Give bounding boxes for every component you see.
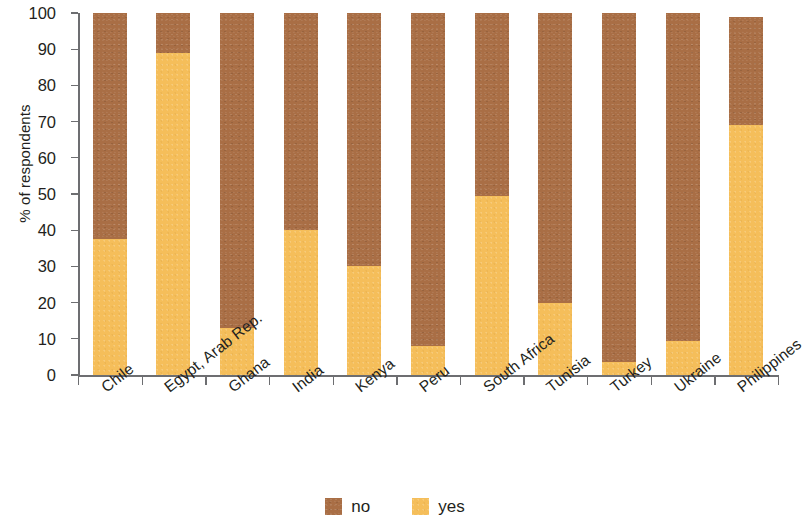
x-tick-mark xyxy=(523,375,524,385)
y-tick-label: 50 xyxy=(10,186,56,203)
y-tick-label: 60 xyxy=(10,150,56,167)
legend-label: yes xyxy=(438,498,464,515)
x-tick-mark xyxy=(778,375,779,385)
bar-group[interactable] xyxy=(284,13,318,375)
y-tick-mark xyxy=(71,374,78,375)
bar-segment-no[interactable] xyxy=(220,13,254,328)
x-tick-mark xyxy=(396,375,397,385)
y-tick-mark xyxy=(71,121,78,122)
bar-group[interactable] xyxy=(538,13,572,375)
legend-label: no xyxy=(351,498,370,515)
bar-segment-no[interactable] xyxy=(93,13,127,239)
y-tick-mark xyxy=(71,230,78,231)
x-tick-mark xyxy=(78,375,79,385)
y-tick-label: 0 xyxy=(10,367,56,384)
x-tick-mark xyxy=(333,375,334,385)
bar-group[interactable] xyxy=(93,13,127,375)
bar-segment-yes[interactable] xyxy=(347,266,381,375)
y-tick-label: 70 xyxy=(10,114,56,131)
plot-area: 0102030405060708090100 xyxy=(78,13,778,375)
legend-item[interactable]: no xyxy=(325,498,370,515)
legend-swatch-yes xyxy=(412,498,429,515)
legend-swatch-no xyxy=(325,498,342,515)
legend-item[interactable]: yes xyxy=(412,498,464,515)
bar-group[interactable] xyxy=(411,13,445,375)
bar-group[interactable] xyxy=(347,13,381,375)
bar-segment-no[interactable] xyxy=(602,13,636,362)
y-tick-mark xyxy=(71,338,78,339)
bar-segment-no[interactable] xyxy=(411,13,445,346)
chart-legend: noyes xyxy=(0,498,790,515)
bar-segment-no[interactable] xyxy=(284,13,318,230)
y-tick-label: 80 xyxy=(10,77,56,94)
bar-segment-no[interactable] xyxy=(475,13,509,196)
bar-group[interactable] xyxy=(666,13,700,375)
x-tick-mark xyxy=(651,375,652,385)
bar-segment-yes[interactable] xyxy=(156,53,190,375)
bar-segment-no[interactable] xyxy=(538,13,572,303)
bar-segment-no[interactable] xyxy=(729,17,763,126)
bar-segment-yes[interactable] xyxy=(729,125,763,375)
x-tick-mark xyxy=(205,375,206,385)
x-tick-mark xyxy=(714,375,715,385)
y-tick-mark xyxy=(71,193,78,194)
y-tick-mark xyxy=(71,12,78,13)
x-tick-mark xyxy=(142,375,143,385)
y-tick-label: 20 xyxy=(10,295,56,312)
x-tick-mark xyxy=(587,375,588,385)
y-tick-mark xyxy=(71,49,78,50)
y-tick-label: 30 xyxy=(10,258,56,275)
y-tick-label: 90 xyxy=(10,41,56,58)
y-tick-mark xyxy=(71,266,78,267)
bar-group[interactable] xyxy=(156,13,190,375)
bar-group[interactable] xyxy=(602,13,636,375)
bar-segment-yes[interactable] xyxy=(475,196,509,375)
y-tick-mark xyxy=(71,157,78,158)
y-tick-label: 100 xyxy=(10,5,56,22)
bar-group[interactable] xyxy=(729,13,763,375)
x-tick-mark xyxy=(460,375,461,385)
bar-segment-no[interactable] xyxy=(347,13,381,266)
bar-segment-no[interactable] xyxy=(156,13,190,53)
y-tick-label: 10 xyxy=(10,331,56,348)
y-axis-line xyxy=(78,13,80,375)
bar-segment-no[interactable] xyxy=(666,13,700,341)
y-tick-mark xyxy=(71,302,78,303)
bar-segment-yes[interactable] xyxy=(93,239,127,375)
x-tick-mark xyxy=(269,375,270,385)
bar-segment-yes[interactable] xyxy=(284,230,318,375)
y-tick-mark xyxy=(71,85,78,86)
bar-group[interactable] xyxy=(475,13,509,375)
y-tick-label: 40 xyxy=(10,222,56,239)
